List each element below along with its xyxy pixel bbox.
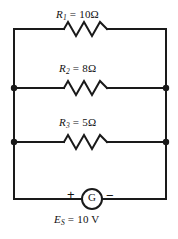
r2-equals: = [73, 62, 79, 74]
r3-symbol: R [59, 116, 66, 128]
r1-label: R1 = 10Ω [56, 9, 99, 20]
r3-subscript: 3 [66, 121, 70, 130]
circuit-diagram: R1 = 10Ω R2 = 8Ω R3 = 5Ω + − G ES = 10 V [0, 0, 178, 239]
r2-zigzag [64, 81, 107, 95]
r1-unit: Ω [91, 8, 99, 20]
source-positive-terminal: + [67, 188, 75, 201]
source-equals: = [68, 213, 74, 225]
r2-subscript: 2 [66, 67, 70, 76]
r1-symbol: R [56, 8, 63, 20]
junction-dot-left-r3 [11, 139, 17, 145]
r3-unit: Ω [88, 116, 96, 128]
source-subscript: S [61, 218, 65, 227]
r3-zigzag [64, 135, 107, 149]
source-label: ES = 10 V [54, 214, 100, 225]
source-negative-terminal: − [106, 189, 114, 202]
r3-label: R3 = 5Ω [59, 117, 96, 128]
source-unit: V [91, 213, 99, 225]
r2-label: R2 = 8Ω [59, 63, 96, 74]
r2-unit: Ω [88, 62, 96, 74]
r2-symbol: R [59, 62, 66, 74]
junction-dot-right-r2 [163, 85, 169, 91]
source-symbol: E [54, 213, 61, 225]
r3-equals: = [73, 116, 79, 128]
source-value: 10 [77, 213, 88, 225]
generator-letter-glyph: G [82, 192, 102, 203]
junction-dot-right-r3 [163, 139, 169, 145]
r1-zigzag [64, 22, 107, 36]
junction-dot-left-r2 [11, 85, 17, 91]
r1-value: 10 [79, 8, 90, 20]
r1-subscript: 1 [63, 13, 67, 22]
r1-equals: = [70, 8, 76, 20]
